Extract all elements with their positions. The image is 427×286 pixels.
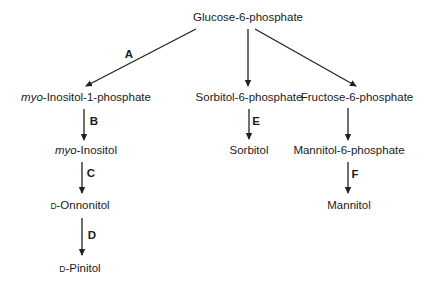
node-mannitol: Mannitol — [327, 200, 370, 212]
edge-label-b: B — [90, 116, 98, 128]
node-text: Sorbitol-6-phosphate — [196, 91, 303, 103]
node-sorbitol: Sorbitol — [230, 145, 269, 157]
node-mannitol-6-phosphate: Mannitol-6-phosphate — [293, 145, 404, 157]
edge-label-f: F — [351, 169, 358, 181]
node-text: -Inositol — [77, 144, 117, 156]
node-text: -Onnonitol — [57, 199, 110, 211]
edge-label-e: E — [252, 116, 260, 128]
node-d-ononitol: D-Onnonitol — [50, 200, 109, 212]
pathway-arrows — [0, 0, 427, 286]
node-fructose-6-phosphate: Fructose-6-phosphate — [301, 92, 414, 104]
node-myo-inositol-1-phosphate: myo-Inositol-1-phosphate — [21, 92, 151, 104]
edge-label-c: C — [87, 168, 95, 180]
node-prefix: myo — [21, 91, 43, 103]
node-text: Fructose-6-phosphate — [301, 91, 414, 103]
node-text: -Inositol-1-phosphate — [43, 91, 151, 103]
node-text: -Pinitol — [65, 262, 100, 274]
node-text: Sorbitol — [230, 144, 269, 156]
node-prefix: myo — [55, 144, 77, 156]
edge-label-a: A — [125, 49, 133, 61]
node-d-pinitol: D-Pinitol — [59, 263, 100, 275]
arrow-glucose-to-fructose-6-phosphate — [255, 29, 356, 86]
arrow-a-glucose-to-myo-inositol-1-phosphate — [86, 29, 196, 86]
node-sorbitol-6-phosphate: Sorbitol-6-phosphate — [196, 92, 303, 104]
node-text: Mannitol — [327, 199, 370, 211]
node-text: Mannitol-6-phosphate — [293, 144, 404, 156]
edge-label-d: D — [88, 230, 96, 242]
node-glucose-6-phosphate: Glucose-6-phosphate — [193, 12, 303, 24]
node-myo-inositol: myo-Inositol — [55, 145, 117, 157]
node-text: Glucose-6-phosphate — [193, 11, 303, 23]
